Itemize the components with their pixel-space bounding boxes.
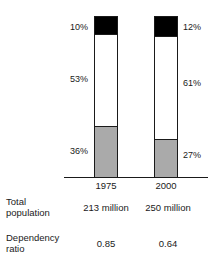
bar-2000 [154,16,178,177]
bar-2000-label-gray: 27% [183,150,214,160]
bar-2000-segment-black [155,17,177,36]
bar-2000-label-black: 12% [183,22,214,32]
x-axis-line [64,177,208,178]
summary-table: Total population 213 million 250 million… [0,196,214,268]
bar-2000-segment-white [155,36,177,139]
row-label-dependency-ratio: Dependency ratio [6,232,70,254]
dependency-ratio-2000: 0.64 [137,238,199,249]
x-axis-tick-2000: 2000 [143,180,189,191]
row-label-line2: ratio [6,243,70,254]
bar-1975 [94,16,118,177]
bar-1975-label-white: 53% [54,74,88,84]
row-label-line1: Total [6,196,70,207]
row-label-line1: Dependency [6,232,70,243]
bar-1975-segment-gray [95,126,117,178]
bar-1975-label-black: 10% [54,22,88,32]
row-label-line2: population [6,207,70,218]
bar-1975-label-gray: 36% [54,146,88,156]
bar-1975-segment-white [95,34,117,126]
bar-2000-segment-gray [155,139,177,178]
total-population-2000: 250 million [137,202,199,213]
row-label-total-population: Total population [6,196,70,218]
bar-1975-segment-black [95,17,117,34]
x-axis-tick-1975: 1975 [83,180,129,191]
stacked-bar-chart: 10% 53% 36% 12% 61% 27% 1975 2000 [0,0,214,190]
dependency-ratio-1975: 0.85 [75,238,137,249]
bar-2000-label-white: 61% [183,78,214,88]
total-population-1975: 213 million [75,202,137,213]
